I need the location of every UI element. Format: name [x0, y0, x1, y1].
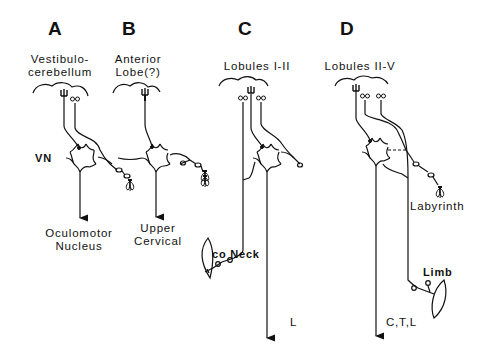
panel-c-circuit	[180, 77, 303, 338]
panel-d-circuit	[335, 76, 446, 336]
cerebellum-outline-b	[113, 83, 160, 93]
neural-circuit-drawing	[0, 0, 491, 352]
cerebellar-vestibular-diagram: A B C D Vestibulo- cerebellum Anterior L…	[0, 0, 491, 352]
panel-b-circuit	[113, 83, 209, 217]
cerebellum-outline-d	[335, 76, 388, 86]
panel-a-circuit	[33, 83, 134, 218]
cerebellum-outline-c	[219, 77, 268, 86]
limb-spindle	[432, 280, 446, 318]
neck-spindle	[202, 238, 213, 278]
